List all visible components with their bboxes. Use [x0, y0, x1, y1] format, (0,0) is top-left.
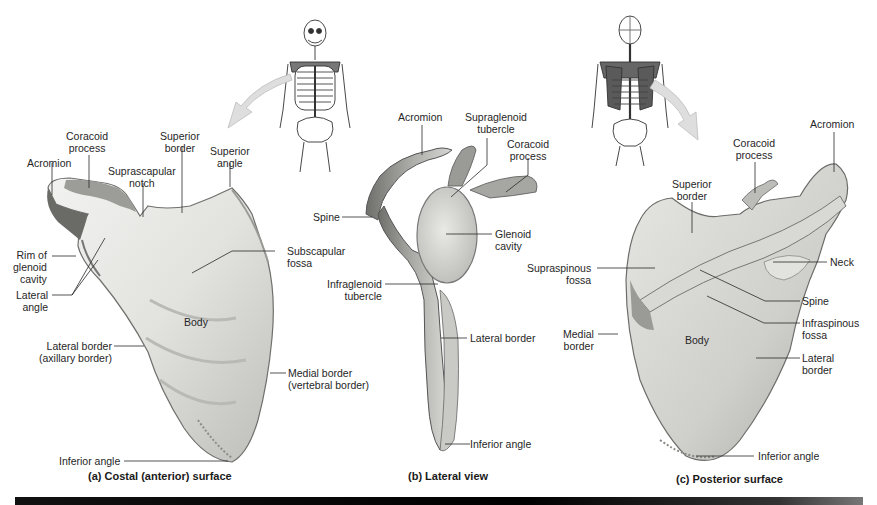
- pointer-arrow-a: [228, 74, 292, 128]
- label-acromion-b: Acromion: [398, 111, 442, 123]
- label-inferior-angle-a: Inferior angle: [59, 455, 120, 467]
- label-superior-angle-a: Superior angle: [210, 145, 250, 169]
- caption-a: (a) Costal (anterior) surface: [88, 470, 232, 482]
- scapula-anterior-illustration: [47, 178, 273, 462]
- label-spine-c: Spine: [802, 295, 829, 307]
- label-rim-glenoid-cavity-a: Rim of glenoid cavity: [13, 249, 47, 285]
- label-glenoid-cavity-b: Glenoid cavity: [495, 228, 531, 252]
- label-body-c: Body: [685, 334, 709, 346]
- caption-c: (c) Posterior surface: [676, 473, 783, 485]
- label-coracoid-process-c: Coracoid process: [733, 137, 775, 161]
- label-inferior-angle-c: Inferior angle: [758, 450, 819, 462]
- label-superior-border-c: Superior border: [672, 178, 712, 202]
- label-medial-border-c: Medial border: [563, 328, 594, 352]
- label-neck-c: Neck: [830, 256, 854, 268]
- label-acromion-c: Acromion: [810, 118, 854, 130]
- label-coracoid-process-a: Coracoid process: [66, 130, 108, 154]
- label-lateral-angle-a: Lateral angle: [16, 289, 48, 313]
- label-lateral-border-a: Lateral border (axillary border): [39, 340, 112, 364]
- label-inferior-angle-b: Inferior angle: [470, 438, 531, 450]
- label-acromion-a: Acromion: [27, 157, 71, 169]
- scapula-posterior-illustration: [626, 164, 848, 461]
- label-body-a: Body: [184, 316, 208, 328]
- label-lateral-border-c: Lateral border: [802, 352, 834, 376]
- label-spine-b: Spine: [313, 211, 340, 223]
- label-medial-border-a: Medial border (vertebral border): [288, 367, 369, 391]
- scapula-lateral-illustration: [366, 146, 537, 451]
- pointer-arrow-c: [650, 80, 698, 140]
- label-superior-border-a: Superior border: [160, 130, 200, 154]
- diagram-artwork: [0, 0, 877, 505]
- label-infraglenoid-tubercle-b: Infraglenoid tubercle: [327, 278, 382, 302]
- label-coracoid-process-b: Coracoid process: [507, 138, 549, 162]
- skeleton-anterior-icon: [280, 20, 350, 172]
- scapula-diagram: Acromion Coracoid process Superior borde…: [0, 0, 877, 505]
- label-supraspinous-fossa-c: Supraspinous fossa: [527, 262, 591, 286]
- caption-b: (b) Lateral view: [408, 470, 488, 482]
- label-subscapular-fossa-a: Subscapular fossa: [287, 245, 345, 269]
- label-supraglenoid-tubercle-b: Supraglenoid tubercle: [465, 111, 527, 135]
- footer-rule: [15, 497, 863, 505]
- label-suprascapular-notch-a: Suprascapular notch: [108, 165, 176, 189]
- label-infraspinous-fossa-c: Infraspinous fossa: [802, 317, 859, 341]
- label-lateral-border-b: Lateral border: [470, 332, 535, 344]
